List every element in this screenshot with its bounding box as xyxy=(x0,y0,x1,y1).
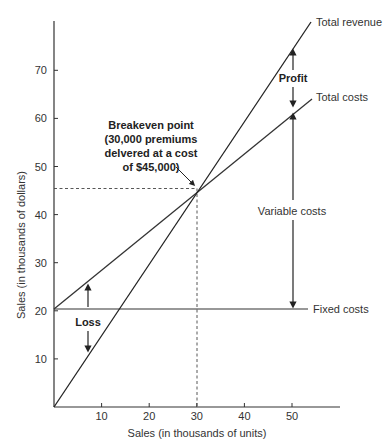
breakeven-chart: 10 20 30 40 50 10 20 30 40 50 60 70 Sale… xyxy=(0,0,385,448)
fixed-costs-label: Fixed costs xyxy=(313,303,369,315)
loss-label: Loss xyxy=(75,316,101,328)
svg-text:of $45,000): of $45,000) xyxy=(123,161,180,173)
y-tick-label: 30 xyxy=(35,257,47,269)
x-tick-label: 30 xyxy=(191,410,203,422)
y-tick-label: 70 xyxy=(35,64,47,76)
y-tick-label: 20 xyxy=(35,305,47,317)
total-costs-label: Total costs xyxy=(316,91,368,103)
x-tick-label: 50 xyxy=(286,410,298,422)
svg-text:(30,000 premiums: (30,000 premiums xyxy=(105,133,198,145)
x-axis-title: Sales (in thousands of units) xyxy=(128,427,267,439)
x-tick-label: 20 xyxy=(143,410,155,422)
total-revenue-label: Total revenue xyxy=(316,16,382,28)
svg-text:Breakeven point: Breakeven point xyxy=(108,119,194,131)
variable-costs-label: Variable costs xyxy=(258,205,327,217)
y-tick-label: 40 xyxy=(35,209,47,221)
y-tick-label: 10 xyxy=(35,353,47,365)
x-tick-label: 40 xyxy=(238,410,250,422)
svg-text:delvered at a cost: delvered at a cost xyxy=(105,147,198,159)
x-tick-label: 10 xyxy=(95,410,107,422)
breakeven-pointer-arrow xyxy=(176,167,193,184)
profit-label: Profit xyxy=(279,72,308,84)
breakeven-annotation: Breakeven point (30,000 premiums delvere… xyxy=(105,119,198,173)
y-tick-label: 60 xyxy=(35,112,47,124)
y-tick-label: 50 xyxy=(35,161,47,173)
y-axis-title: Sales (in thousands of dollars) xyxy=(15,171,27,319)
